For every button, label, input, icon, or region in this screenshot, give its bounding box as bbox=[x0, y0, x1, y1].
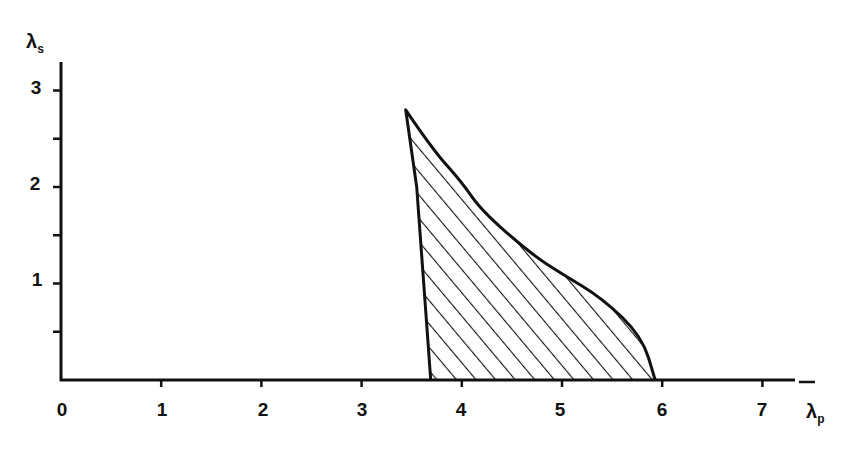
x-tick-label-6: 6 bbox=[657, 399, 668, 421]
y-axis-title: λs bbox=[26, 30, 44, 56]
x-tick-label-4: 4 bbox=[456, 399, 467, 421]
x-axis-subscript: p bbox=[817, 412, 824, 426]
x-tick-label-1: 1 bbox=[157, 399, 168, 421]
x-tick-label-0: 0 bbox=[57, 399, 68, 421]
x-tick-label-3: 3 bbox=[357, 399, 368, 421]
x-axis-symbol: λ bbox=[806, 400, 817, 422]
y-axis-subscript: s bbox=[37, 42, 44, 56]
axis-ticks bbox=[53, 91, 762, 388]
y-tick-label-2: 2 bbox=[30, 173, 41, 195]
stability-region-chart: λs λp 3 2 1 0 1 2 3 4 5 6 7 bbox=[0, 0, 851, 449]
hatched-region bbox=[406, 110, 655, 380]
x-tick-label-5: 5 bbox=[555, 399, 566, 421]
y-tick-label-3: 3 bbox=[31, 77, 42, 99]
x-tick-label-7: 7 bbox=[757, 399, 768, 421]
y-axis-symbol: λ bbox=[26, 30, 37, 52]
y-tick-label-1: 1 bbox=[32, 269, 43, 291]
chart-svg bbox=[0, 0, 851, 449]
x-tick-label-2: 2 bbox=[258, 399, 269, 421]
x-axis-title: λp bbox=[806, 400, 824, 426]
